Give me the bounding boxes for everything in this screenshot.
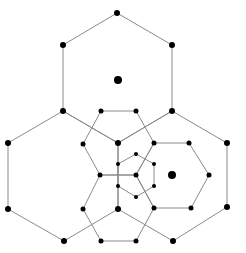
vertex-node [81, 207, 86, 212]
vertex-node [114, 10, 120, 16]
vertex-node [99, 239, 104, 244]
center-node [114, 76, 122, 84]
vertex-node [224, 140, 230, 146]
vertex-node [152, 162, 156, 166]
vertex-node [60, 108, 66, 114]
vertex-node [224, 204, 230, 210]
vertex-node [207, 173, 212, 178]
vertex-node [116, 184, 120, 188]
vertex-nodes [5, 10, 230, 244]
vertex-node [189, 206, 194, 211]
vertex-node [170, 238, 176, 244]
vertex-node [5, 206, 11, 212]
vertex-node [98, 173, 103, 178]
vertex-node [81, 142, 86, 147]
vertex-node [134, 152, 138, 156]
vertex-node [152, 141, 157, 146]
vertex-node [134, 173, 139, 178]
vertex-node [134, 109, 139, 114]
vertex-node [187, 141, 192, 146]
vertex-node [116, 162, 120, 166]
vertex-node [134, 195, 138, 199]
vertex-node [99, 109, 104, 114]
vertex-node [152, 184, 156, 188]
vertex-node [169, 42, 175, 48]
center-node [168, 171, 176, 179]
vertex-node [134, 239, 139, 244]
vertex-node [5, 140, 11, 146]
vertex-node [61, 238, 67, 244]
vertex-node [169, 108, 175, 114]
vertex-node [115, 140, 121, 146]
vertex-node [60, 42, 66, 48]
hexagon-diagram [0, 0, 246, 253]
vertex-node [115, 206, 121, 212]
vertex-node [152, 206, 157, 211]
